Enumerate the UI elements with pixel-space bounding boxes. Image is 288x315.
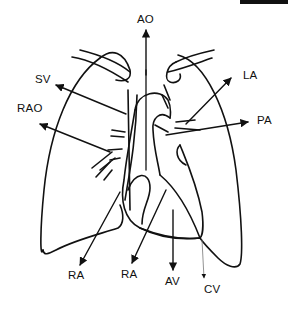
label-la: LA [243,70,257,82]
label-arrows [40,30,248,278]
mediastinum-outline [92,70,146,210]
label-cv: CV [204,284,220,296]
right-lung-outline [41,50,130,254]
label-sv: SV [35,74,51,86]
label-ra-left: RA [68,270,84,282]
label-ra-right: RA [121,269,137,281]
chest-diagram [0,0,288,315]
arrow-cv [202,240,204,278]
heart-outline [123,85,203,239]
label-av: AV [165,276,180,288]
label-pa: PA [257,115,272,127]
arrow-sv [56,85,126,114]
label-ao: AO [137,14,154,26]
label-rao: RAO [17,103,43,115]
